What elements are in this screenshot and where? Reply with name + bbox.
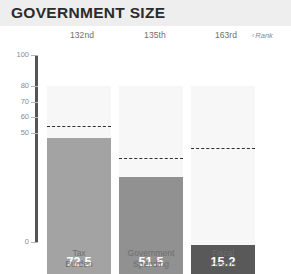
bar-column-tax-burden: 72.5 [47,57,111,274]
y-tick-label-70: 70 [9,98,29,106]
y-tick-label-100: 100 [9,51,29,59]
reference-line-tax-burden [47,126,111,127]
page-title: GOVERNMENT SIZE [11,4,165,22]
rank-annotation-label: Rank [255,31,273,40]
rank-annotation: ‹Rank [252,31,273,40]
rank-label-government-spending: 135th [117,30,193,40]
title-band: GOVERNMENT SIZE [0,0,291,26]
y-tick-mark-60 [31,117,38,118]
left-caret-icon: ‹ [252,32,254,39]
reference-line-fiscal-health [191,148,255,149]
rank-label-tax-burden: 132nd [44,30,120,40]
category-label-tax-burden: Tax Burden [47,248,111,269]
y-tick-label-0: 0 [9,238,29,246]
bar-chart: 132nd 135th 163rd ‹Rank 100 80 70 60 50 … [0,26,291,274]
y-axis-line [35,55,38,243]
reference-line-government-spending [119,158,183,159]
category-label-fiscal-health: Fiscal Health [191,248,255,269]
y-tick-mark-0 [31,242,38,243]
y-tick-mark-80 [31,86,38,87]
y-tick-label-60: 60 [9,113,29,121]
bar-column-fiscal-health: 15.2 [191,57,255,274]
y-tick-mark-100 [31,55,38,56]
y-tick-mark-50 [31,133,38,134]
bar-column-government-spending: 51.5 [119,57,183,274]
y-tick-label-50: 50 [9,129,29,137]
y-tick-label-80: 80 [9,82,29,90]
category-label-government-spending: Government Spending [110,248,192,269]
y-tick-mark-70 [31,102,38,103]
